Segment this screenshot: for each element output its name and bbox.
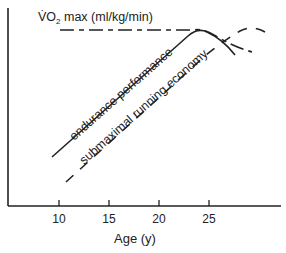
x-axis-label: Age (y) — [114, 231, 156, 246]
vo2max-line — [60, 30, 252, 52]
tick-label-25: 25 — [202, 212, 216, 226]
tick-label-10: 10 — [52, 212, 66, 226]
x-tick-labels: 10 15 20 25 — [52, 212, 216, 226]
tick-label-15: 15 — [102, 212, 116, 226]
x-ticks — [59, 200, 209, 206]
chart-canvas: 10 15 20 25 Age (y) V̇O2 max (ml/kg/min)… — [0, 0, 286, 253]
age-performance-chart: 10 15 20 25 Age (y) V̇O2 max (ml/kg/min)… — [0, 0, 286, 253]
tick-label-20: 20 — [152, 212, 166, 226]
vo2max-label: V̇O2 max (ml/kg/min) — [38, 10, 153, 26]
